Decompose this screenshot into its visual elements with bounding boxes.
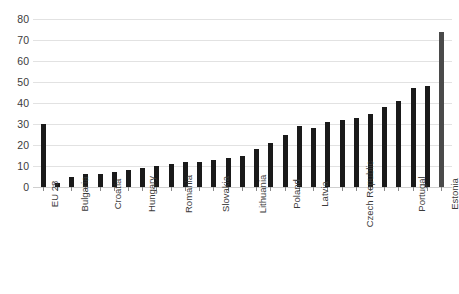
bar-slot xyxy=(136,19,150,187)
bar-slot xyxy=(79,19,93,187)
bar-slot xyxy=(178,19,192,187)
x-label-slot: Estonia xyxy=(433,192,459,292)
x-label-slot: Slovakia xyxy=(202,192,238,292)
x-label-slot: EU 28 xyxy=(36,192,62,292)
x-tick xyxy=(413,187,414,191)
x-label-slot: Portugal xyxy=(398,192,433,292)
bar xyxy=(98,174,103,187)
bar xyxy=(268,143,273,187)
bar-slot xyxy=(93,19,107,187)
bar-slot xyxy=(378,19,392,187)
bar xyxy=(169,164,174,187)
bar-slot xyxy=(107,19,121,187)
x-label-slot: Latvia xyxy=(306,192,331,292)
x-tick xyxy=(242,187,243,191)
x-tick xyxy=(71,187,72,191)
y-tick-label: 10 xyxy=(17,161,29,171)
tick-slot xyxy=(235,187,249,191)
x-label-slot: Romania xyxy=(164,192,202,292)
bar-slot xyxy=(420,19,434,187)
x-tick xyxy=(384,187,385,191)
x-tick-label: Croatia xyxy=(113,179,124,210)
x-label-slot: Croatia xyxy=(97,192,128,292)
x-axis-labels: EU 28BulgariaCroatiaHungaryRomaniaSlovak… xyxy=(33,192,452,292)
bar-slot xyxy=(349,19,363,187)
bar xyxy=(382,107,387,187)
bar-chart: 01020304050607080 EU 28BulgariaCroatiaHu… xyxy=(0,0,459,294)
x-tick xyxy=(142,187,143,191)
x-tick xyxy=(128,187,129,191)
bar xyxy=(325,122,330,187)
bar-slot xyxy=(250,19,264,187)
tick-slot xyxy=(64,187,78,191)
tick-slot xyxy=(36,187,50,191)
x-tick-label: Slovakia xyxy=(220,176,231,212)
bar-slot xyxy=(164,19,178,187)
bar xyxy=(396,101,401,187)
x-tick xyxy=(270,187,271,191)
tick-slot xyxy=(349,187,363,191)
bar xyxy=(240,156,245,188)
bar xyxy=(411,88,416,187)
bar xyxy=(140,168,145,187)
tick-slot xyxy=(193,187,207,191)
bar xyxy=(354,118,359,187)
tick-slot xyxy=(392,187,406,191)
bar xyxy=(197,162,202,187)
bar-slot xyxy=(121,19,135,187)
bar-slot xyxy=(36,19,50,187)
bar xyxy=(340,120,345,187)
x-tick xyxy=(213,187,214,191)
x-tick xyxy=(398,187,399,191)
bar-slot xyxy=(64,19,78,187)
x-tick xyxy=(43,187,44,191)
tick-slot xyxy=(121,187,135,191)
x-tick-label: Estonia xyxy=(449,178,459,210)
x-label-slot: Poland xyxy=(276,192,306,292)
bar xyxy=(69,177,74,188)
bar-slot xyxy=(221,19,235,187)
tick-slot xyxy=(164,187,178,191)
bar xyxy=(126,170,131,187)
bar xyxy=(311,128,316,187)
x-label-slot: Lithuania xyxy=(238,192,277,292)
x-tick xyxy=(285,187,286,191)
x-tick xyxy=(441,187,442,191)
tick-slot xyxy=(378,187,392,191)
x-tick xyxy=(100,187,101,191)
x-tick-label: Bulgaria xyxy=(80,177,91,212)
y-tick-label: 0 xyxy=(23,182,29,192)
bar-slot xyxy=(50,19,64,187)
x-tick-label: EU 28 xyxy=(49,181,60,207)
bar-slot xyxy=(292,19,306,187)
x-tick xyxy=(171,187,172,191)
bar-slot xyxy=(392,19,406,187)
x-tick-label: Romania xyxy=(183,175,194,213)
bar-slot xyxy=(207,19,221,187)
x-tick-label: Czech Republic xyxy=(365,161,376,228)
y-tick-label: 40 xyxy=(17,98,29,108)
tick-slot xyxy=(93,187,107,191)
y-tick-label: 50 xyxy=(17,77,29,87)
bar-series xyxy=(33,19,452,187)
x-tick-label: Portugal xyxy=(416,176,427,211)
x-label-slot: Hungary xyxy=(128,192,164,292)
x-tick-label: Hungary xyxy=(146,176,157,212)
y-tick-label: 60 xyxy=(17,56,29,66)
tick-slot xyxy=(335,187,349,191)
x-tick xyxy=(342,187,343,191)
bar-slot xyxy=(406,19,420,187)
bar-slot xyxy=(235,19,249,187)
bar-slot xyxy=(321,19,335,187)
x-tick-label: Latvia xyxy=(319,181,330,206)
bar xyxy=(439,32,444,187)
bar xyxy=(211,160,216,187)
bar xyxy=(425,86,430,187)
bar-slot xyxy=(193,19,207,187)
y-tick-label: 80 xyxy=(17,14,29,24)
bar xyxy=(41,124,46,187)
tick-slot xyxy=(207,187,221,191)
bar-slot xyxy=(150,19,164,187)
x-label-slot: Bulgaria xyxy=(62,192,97,292)
bar-slot xyxy=(306,19,320,187)
